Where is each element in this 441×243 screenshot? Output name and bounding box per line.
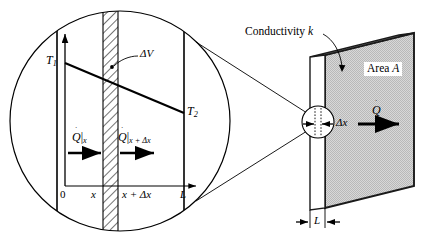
label-T1: T1 xyxy=(46,54,57,68)
tick-label-L: L xyxy=(180,189,186,200)
q-dot-accent: ˙ xyxy=(75,127,78,135)
element-highlight-circle xyxy=(302,106,334,138)
label-delta-x: Δx xyxy=(336,117,347,128)
label-slab-thickness: L xyxy=(314,215,320,226)
label-heat-flux-out: Q˙|x + Δx xyxy=(118,131,151,145)
label-heat-flow: Q˙ xyxy=(372,104,381,116)
temperature-profile-line xyxy=(65,63,184,113)
delta-v-leader-dot xyxy=(110,65,114,69)
magnifier-circle-outline xyxy=(10,11,230,231)
label-heat-flux-in: Q˙|x xyxy=(72,131,87,145)
q-dot-accent: ˙ xyxy=(121,127,124,135)
tick-label-origin: 0 xyxy=(60,189,66,200)
heat-conduction-figure: T1 T2 ΔV Q˙|x Q˙|x + Δx 0 x x + Δx L Con… xyxy=(0,0,441,243)
figure-vector-layer xyxy=(0,0,441,243)
label-area: Area A xyxy=(364,62,402,76)
tick-label-x-plus-dx: x + Δx xyxy=(122,189,151,200)
tick-label-x: x xyxy=(91,189,96,200)
magnifier-connector-lines xyxy=(196,42,307,201)
label-delta-v: ΔV xyxy=(140,48,153,59)
control-volume-strip xyxy=(103,10,118,232)
label-conductivity: Conductivity k xyxy=(245,26,313,38)
label-T2: T2 xyxy=(187,105,198,119)
q-dot-accent: ˙ xyxy=(375,100,378,108)
